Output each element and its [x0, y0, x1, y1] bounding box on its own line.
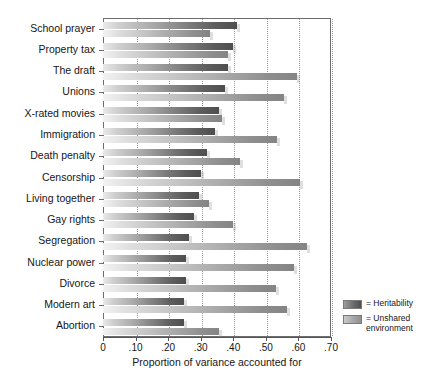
bar-unshared [103, 30, 210, 37]
y-axis-label: Segregation [38, 235, 95, 246]
bar-heritability [103, 107, 219, 114]
y-axis-label: Nuclear power [27, 257, 95, 268]
legend-item: = Unshared environment [343, 314, 429, 333]
y-axis-label: Censorship [42, 172, 95, 183]
bar-unshared [103, 264, 294, 271]
bar-unshared [103, 306, 287, 313]
bar-unshared [103, 51, 228, 58]
bar-heritability [103, 277, 186, 284]
bar-heritability [103, 192, 199, 199]
x-axis-tick-label: .20 [161, 342, 175, 353]
bar-unshared [103, 243, 307, 250]
y-axis-label: Property tax [38, 44, 95, 55]
bar-heritability [103, 43, 233, 50]
bar-heritability [103, 149, 207, 156]
x-axis-tick-label: .10 [129, 342, 143, 353]
y-axis-label: Immigration [40, 129, 95, 140]
legend-label: = Heritability [366, 299, 413, 309]
bar-unshared [103, 200, 209, 207]
bar-heritability [103, 255, 186, 262]
y-axis-label: Modern art [44, 299, 95, 310]
bar-unshared [103, 221, 233, 228]
x-axis-line [103, 337, 331, 338]
x-axis-tick-label: .50 [259, 342, 273, 353]
bar-heritability [103, 64, 228, 71]
bar-heritability [103, 213, 194, 220]
y-axis-label: X-rated movies [24, 108, 95, 119]
x-axis-tick-label: .70 [324, 342, 338, 353]
y-axis-label: Death penalty [30, 150, 95, 161]
x-axis-title: Proportion of variance accounted for [103, 356, 331, 368]
x-axis-tick [168, 337, 169, 341]
legend-swatch-heritability [343, 300, 362, 309]
bars-container [103, 18, 331, 337]
bar-unshared [103, 73, 297, 80]
bar-heritability [103, 128, 215, 135]
y-axis-label: School prayer [30, 23, 95, 34]
bar-heritability [103, 319, 184, 326]
x-axis-tick [233, 337, 234, 341]
bar-heritability [103, 22, 237, 29]
x-axis-tick [298, 337, 299, 341]
legend: = Heritability= Unshared environment [343, 299, 429, 338]
x-axis-tick [136, 337, 137, 341]
bar-heritability [103, 85, 225, 92]
bar-unshared [103, 179, 300, 186]
bar-chart: School prayerProperty taxThe draftUnions… [0, 0, 430, 381]
bar-unshared [103, 94, 284, 101]
x-axis-tick-label: .60 [291, 342, 305, 353]
bar-heritability [103, 298, 184, 305]
y-axis-label: Living together [26, 193, 95, 204]
legend-swatch-unshared [343, 315, 362, 324]
x-axis-tick [103, 337, 104, 341]
x-axis-tick-label: 0 [100, 342, 106, 353]
bar-unshared [103, 328, 219, 335]
bar-unshared [103, 115, 222, 122]
y-axis-category-labels: School prayerProperty taxThe draftUnions… [0, 18, 99, 337]
bar-unshared [103, 158, 240, 165]
gridline [332, 19, 333, 336]
legend-label: = Unshared environment [366, 314, 429, 333]
bar-heritability [103, 234, 189, 241]
y-axis-label: The draft [53, 65, 95, 76]
y-axis-label: Unions [62, 86, 95, 97]
x-axis-tick [331, 337, 332, 341]
bar-unshared [103, 285, 276, 292]
y-axis-label: Gay rights [47, 214, 95, 225]
legend-item: = Heritability [343, 299, 429, 309]
x-axis-tick-label: .30 [194, 342, 208, 353]
x-axis-tick [201, 337, 202, 341]
x-axis-tick [266, 337, 267, 341]
y-axis-label: Abortion [56, 320, 95, 331]
bar-heritability [103, 170, 201, 177]
y-axis-label: Divorce [59, 278, 95, 289]
x-axis-tick-label: .40 [226, 342, 240, 353]
bar-unshared [103, 136, 277, 143]
